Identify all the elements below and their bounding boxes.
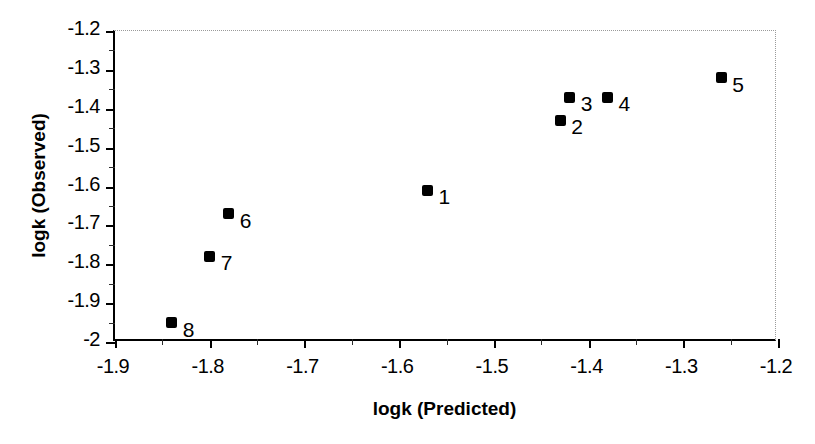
x-axis-tick-label: -1.6 (357, 355, 437, 378)
data-point-marker (166, 317, 177, 328)
data-point-marker (204, 251, 215, 262)
x-axis-tick-major (494, 339, 496, 348)
y-axis-tick-major (106, 70, 115, 72)
x-axis-tick-label: -1.7 (262, 355, 342, 378)
data-point-label: 2 (571, 116, 583, 137)
data-point-label: 5 (732, 74, 744, 95)
x-axis-tick-major (778, 339, 780, 348)
x-axis-tick-minor (257, 339, 258, 345)
data-point-label: 1 (439, 186, 451, 207)
y-axis-tick-major (106, 31, 115, 33)
x-axis-tick-minor (636, 339, 637, 345)
x-axis-tick-major (399, 339, 401, 348)
y-axis-tick-label: -1.4 (68, 95, 100, 118)
y-axis-tick-minor (109, 167, 115, 168)
y-axis-tick-major (106, 109, 115, 111)
y-axis-tick-label: -1.3 (68, 56, 100, 79)
y-axis-tick-minor (109, 128, 115, 129)
data-point-marker (564, 92, 575, 103)
x-axis-tick-label: -1.5 (452, 355, 532, 378)
data-point-label: 3 (581, 93, 593, 114)
y-axis-tick-major (106, 303, 115, 305)
x-axis-tick-major (683, 339, 685, 348)
data-point-marker (716, 72, 727, 83)
scatter-plot-figure: 12345678 -1.2-1.3-1.4-1.5-1.6-1.7-1.8-1.… (0, 0, 815, 444)
x-axis-tick-minor (162, 339, 163, 345)
x-axis-tick-minor (541, 339, 542, 345)
y-axis-tick-major (106, 148, 115, 150)
x-axis-tick-major (589, 339, 591, 348)
y-axis-tick-label: -1.8 (68, 250, 100, 273)
y-axis-tick-label: -1.7 (68, 211, 100, 234)
data-point-label: 6 (240, 210, 252, 231)
data-point-marker (602, 92, 613, 103)
y-axis-tick-minor (109, 50, 115, 51)
x-axis-tick-major (210, 339, 212, 348)
x-axis-title: logk (Predicted) (113, 398, 776, 420)
x-axis-tick-minor (352, 339, 353, 345)
x-axis-tick-label: -1.8 (168, 355, 248, 378)
y-axis-title: logk (Observed) (26, 30, 52, 341)
y-axis-tick-major (106, 264, 115, 266)
x-axis-tick-label: -1.3 (641, 355, 721, 378)
x-axis-tick-minor (447, 339, 448, 345)
x-axis-tick-label: -1.4 (547, 355, 627, 378)
y-axis-tick-major (106, 187, 115, 189)
data-point-marker (223, 208, 234, 219)
y-axis-tick-major (106, 225, 115, 227)
y-axis-tick-major (106, 342, 115, 344)
data-point-label: 4 (619, 93, 631, 114)
y-axis-tick-minor (109, 89, 115, 90)
x-axis-tick-major (304, 339, 306, 348)
data-point-marker (555, 115, 566, 126)
y-axis-tick-label: -2 (83, 328, 100, 351)
x-axis-tick-minor (731, 339, 732, 345)
y-axis-tick-label: -1.2 (68, 17, 100, 40)
y-axis-tick-label: -1.9 (68, 289, 100, 312)
x-axis-tick-label: -1.9 (73, 355, 153, 378)
y-axis-tick-minor (109, 284, 115, 285)
data-point-label: 7 (221, 252, 233, 273)
y-axis-tick-minor (109, 323, 115, 324)
y-axis-tick-label: -1.5 (68, 134, 100, 157)
data-point-label: 8 (183, 319, 195, 340)
data-point-marker (422, 185, 433, 196)
y-axis-tick-minor (109, 206, 115, 207)
x-axis-tick-label: -1.2 (736, 355, 815, 378)
y-axis-tick-label: -1.6 (68, 173, 100, 196)
x-axis-tick-major (115, 339, 117, 348)
y-axis-tick-minor (109, 245, 115, 246)
plot-area: 12345678 (113, 30, 776, 341)
